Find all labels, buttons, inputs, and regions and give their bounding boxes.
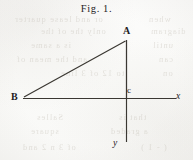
axis-label-y: y — [113, 139, 117, 149]
figure-caption: Fig. 1. — [0, 3, 193, 14]
point-label-a: A — [123, 26, 130, 36]
point-label-b: B — [11, 92, 18, 102]
figure-page: or and lease quarter when only the of th… — [0, 0, 193, 160]
geometry-diagram — [0, 0, 193, 160]
segment-b-to-a — [24, 41, 126, 97]
point-label-c: c — [127, 86, 131, 95]
axis-label-x: x — [176, 92, 180, 102]
